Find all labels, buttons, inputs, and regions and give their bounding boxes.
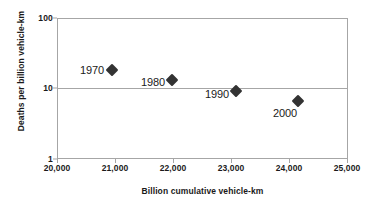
x-tick-label-20000: 20,000 — [44, 163, 71, 173]
y-tick-label-10: 10 — [43, 83, 53, 93]
data-label-1990: 1990 — [205, 88, 229, 100]
data-label-1970: 1970 — [80, 64, 104, 76]
x-axis-title: Billion cumulative vehicle-km — [57, 186, 348, 196]
data-label-2000: 2000 — [273, 107, 297, 119]
data-label-1980: 1980 — [141, 76, 165, 88]
data-point-2000[interactable] — [292, 95, 305, 108]
x-tick-label-21000: 21,000 — [102, 163, 129, 173]
plot-area: 1970 1980 1990 2000 — [57, 18, 348, 159]
x-tick-label-25000: 25,000 — [334, 163, 361, 173]
y-axis-ticks: 100 10 1 — [0, 0, 53, 209]
data-point-1970[interactable] — [106, 63, 119, 76]
y-axis-title: Deaths per billion vehicle-km — [16, 0, 26, 146]
data-point-1990[interactable] — [230, 85, 243, 98]
y-tick-label-100: 100 — [38, 13, 53, 23]
x-tick-label-23000: 23,000 — [218, 163, 245, 173]
data-point-1980[interactable] — [166, 74, 179, 87]
chart-figure: 100 10 1 Deaths per billion vehicle-km 1… — [0, 0, 377, 209]
x-tick-label-22000: 22,000 — [160, 163, 187, 173]
gridline-y-10 — [58, 88, 347, 89]
x-axis-ticks: 20,000 21,000 22,000 23,000 24,000 25,00… — [0, 163, 377, 177]
x-tick-label-24000: 24,000 — [276, 163, 303, 173]
